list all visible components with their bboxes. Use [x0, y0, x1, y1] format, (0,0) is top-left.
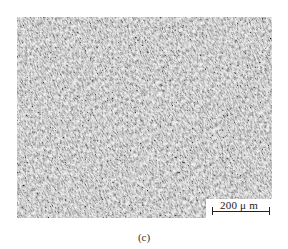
scale-bar-line	[212, 211, 270, 212]
scale-bar-tick-right	[269, 207, 270, 215]
figure: 200 μ m (c)	[0, 0, 288, 249]
panel-caption: (c)	[0, 231, 288, 243]
micrograph-image	[17, 17, 272, 218]
scale-bar-label: 200 μ m	[206, 199, 272, 211]
scale-bar: 200 μ m	[206, 199, 272, 218]
